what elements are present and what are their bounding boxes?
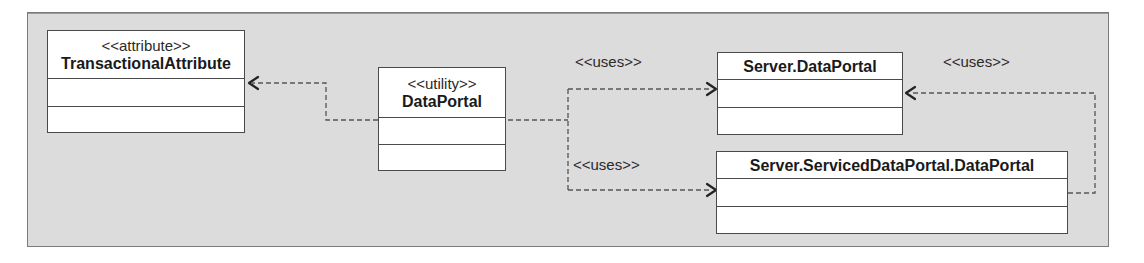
class-transactional-attribute[interactable]: <<attribute>> TransactionalAttribute bbox=[47, 30, 245, 133]
class-operations-section bbox=[718, 108, 902, 134]
class-name: Server.DataPortal bbox=[743, 57, 876, 76]
class-attributes-section bbox=[48, 79, 244, 107]
diagram-canvas: <<attribute>> TransactionalAttribute <<u… bbox=[0, 0, 1144, 263]
class-stereotype: <<attribute>> bbox=[101, 37, 190, 54]
class-attributes-section bbox=[379, 118, 505, 145]
class-operations-section bbox=[48, 107, 244, 132]
class-stereotype: <<utility>> bbox=[407, 75, 476, 92]
class-attributes-section bbox=[717, 179, 1067, 207]
class-name: Server.ServicedDataPortal.DataPortal bbox=[750, 156, 1035, 175]
class-name-section: <<utility>> DataPortal bbox=[379, 68, 505, 118]
class-serviced-data-portal[interactable]: Server.ServicedDataPortal.DataPortal bbox=[716, 151, 1068, 234]
class-operations-section bbox=[717, 207, 1067, 233]
class-name: TransactionalAttribute bbox=[61, 54, 231, 73]
class-name: DataPortal bbox=[402, 92, 482, 111]
class-name-section: <<attribute>> TransactionalAttribute bbox=[48, 31, 244, 79]
uses-label-server-dataportal: <<uses>> bbox=[575, 53, 642, 70]
class-name-section: Server.DataPortal bbox=[718, 53, 902, 80]
uses-label-serviced-to-server: <<uses>> bbox=[943, 53, 1010, 70]
class-server-data-portal[interactable]: Server.DataPortal bbox=[717, 52, 903, 135]
uses-label-serviced-dataportal: <<uses>> bbox=[573, 156, 640, 173]
class-attributes-section bbox=[718, 80, 902, 108]
class-name-section: Server.ServicedDataPortal.DataPortal bbox=[717, 152, 1067, 179]
class-data-portal[interactable]: <<utility>> DataPortal bbox=[378, 67, 506, 171]
class-operations-section bbox=[379, 145, 505, 170]
